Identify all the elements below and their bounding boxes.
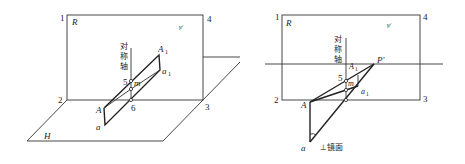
diagram-canvas: 1 2 3 4 R H γ/ 对 称 轴 A 1 a 1 5 m 6 A a <box>0 0 465 164</box>
label-P-prime: P′ <box>376 55 385 65</box>
axis-label-left: 对 称 轴 <box>120 41 128 71</box>
right-figure: 1 2 3 4 R γ/ 对 称 轴 P′ A 1 5 m a 1 A a ⊥镜… <box>265 12 443 153</box>
axis-char-2: 称 <box>334 44 342 54</box>
line-A-P <box>310 64 374 102</box>
angle-mark <box>310 134 316 135</box>
label-a-right: a <box>301 143 306 153</box>
axis-char-2: 称 <box>120 51 128 61</box>
label-A1-sub-right: 1 <box>355 66 358 72</box>
corner-label-4-left: 4 <box>207 14 212 24</box>
plane-r-label-right: R <box>285 18 292 28</box>
axis-label-right: 对 称 轴 <box>334 34 342 64</box>
label-a1-right: a <box>361 87 365 96</box>
corner-label-3-left: 3 <box>205 102 210 112</box>
corner-label-3-right: 3 <box>423 94 428 104</box>
plane-r-label-left: R <box>71 17 78 27</box>
label-5-left: 5 <box>123 77 128 87</box>
gamma-mark-right: γ/ <box>387 22 392 28</box>
corner-label-1-right: 1 <box>275 12 280 22</box>
axis-char-1: 对 <box>120 41 128 51</box>
label-a-left: a <box>96 122 101 132</box>
corner-label-2-left: 2 <box>58 95 63 105</box>
gamma-mark-left: γ/ <box>179 24 184 30</box>
point-m-left <box>129 87 132 90</box>
label-A1-sub-left: 1 <box>165 49 168 55</box>
label-m-left: m <box>134 78 141 88</box>
corner-label-2-right: 2 <box>274 95 279 105</box>
label-a1-sub-left: 1 <box>168 71 171 77</box>
axis-char-3: 轴 <box>120 61 128 71</box>
point-m-right <box>344 88 347 91</box>
label-A1-left: A <box>157 44 164 54</box>
label-A-right: A <box>300 100 307 110</box>
point-6-right <box>344 98 347 101</box>
label-5-right: 5 <box>338 73 343 83</box>
label-m-right: m <box>348 79 354 88</box>
point-5-left <box>129 79 132 82</box>
label-a1-left: a <box>162 66 167 76</box>
point-6-left <box>129 98 132 101</box>
plane-h-label: H <box>43 131 51 141</box>
left-figure: 1 2 3 4 R H γ/ 对 称 轴 A 1 a 1 5 m 6 A a <box>27 13 240 141</box>
corner-label-1-left: 1 <box>60 13 65 23</box>
label-A1-right: A <box>348 62 354 71</box>
axis-char-1: 对 <box>334 34 342 44</box>
perp-mirror-label: ⊥镜面 <box>320 142 343 152</box>
label-a1-sub-right: 1 <box>366 91 369 97</box>
axis-char-3: 轴 <box>334 54 342 64</box>
corner-label-4-right: 4 <box>423 12 428 22</box>
label-6-left: 6 <box>131 103 136 113</box>
label-A-left: A <box>95 105 102 115</box>
